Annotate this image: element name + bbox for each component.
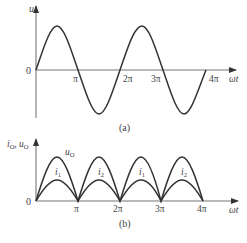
y-axis-label-b: iO, uO (7, 139, 29, 150)
origin-label-b: 0 (26, 196, 31, 207)
origin-label-a: 0 (26, 65, 31, 76)
tick-4pi-b: 4π (197, 204, 207, 214)
outer-arches-uo (36, 157, 203, 201)
curve-label-uo: uO (65, 147, 75, 158)
tick-3pi-b: 3π (155, 204, 165, 214)
tick-2pi-a: 2π (123, 74, 133, 84)
tick-pi-a: π (73, 74, 78, 84)
tick-pi-b: π (74, 204, 79, 214)
caption-a: (a) (119, 122, 130, 134)
x-axis-label-a: ωt (229, 74, 239, 84)
figure-a: u 0 π 2π 3π 4π ωt (a) (26, 3, 239, 134)
rectifier-waveform-diagram: u 0 π 2π 3π 4π ωt (a) iO, uO uO i1 i2 i1… (0, 0, 247, 243)
curve-label-i1: i1 (55, 167, 61, 178)
curve-label-i2: i2 (98, 167, 104, 178)
figure-b: iO, uO uO i1 i2 i1 i2 0 π 2π 3π 4π ωt (b… (7, 139, 239, 230)
tick-4pi-a: 4π (209, 74, 219, 84)
tick-2pi-b: 2π (113, 204, 123, 214)
caption-b: (b) (119, 218, 131, 230)
y-axis-label-a: u (29, 3, 34, 14)
curve-label-i1: i1 (139, 167, 145, 178)
curve-label-i2: i2 (181, 167, 187, 178)
tick-3pi-a: 3π (151, 74, 161, 84)
x-axis-label-b: ωt (229, 205, 239, 215)
